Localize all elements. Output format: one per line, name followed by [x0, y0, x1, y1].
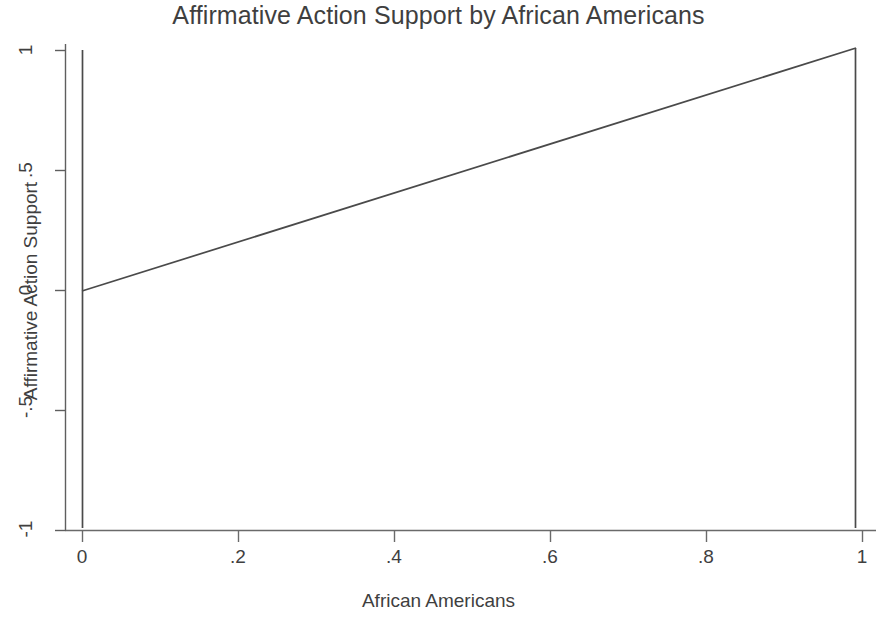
fitted-line: [82, 48, 856, 291]
chart-figure: Affirmative Action Support by African Am…: [0, 0, 877, 621]
plot-area: [0, 0, 877, 621]
